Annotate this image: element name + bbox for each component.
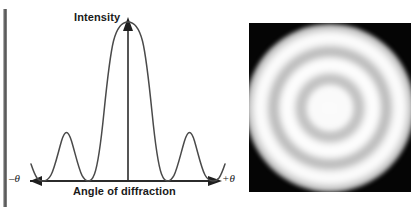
intensity-plot-panel: Intensity Angle of diffraction –θ +θ — [0, 0, 240, 207]
positive-theta-label: +θ — [222, 172, 235, 184]
negative-theta-label: –θ — [9, 172, 20, 184]
concentric-rings-disk — [249, 24, 411, 192]
diffraction-figure: Intensity Angle of diffraction –θ +θ — [0, 0, 420, 207]
y-axis-title: Intensity — [74, 11, 120, 23]
intensity-plot-svg — [0, 0, 240, 207]
diffraction-pattern-image — [249, 23, 411, 192]
y-axis-arrowhead — [123, 17, 133, 31]
x-axis-title: Angle of diffraction — [73, 185, 176, 197]
